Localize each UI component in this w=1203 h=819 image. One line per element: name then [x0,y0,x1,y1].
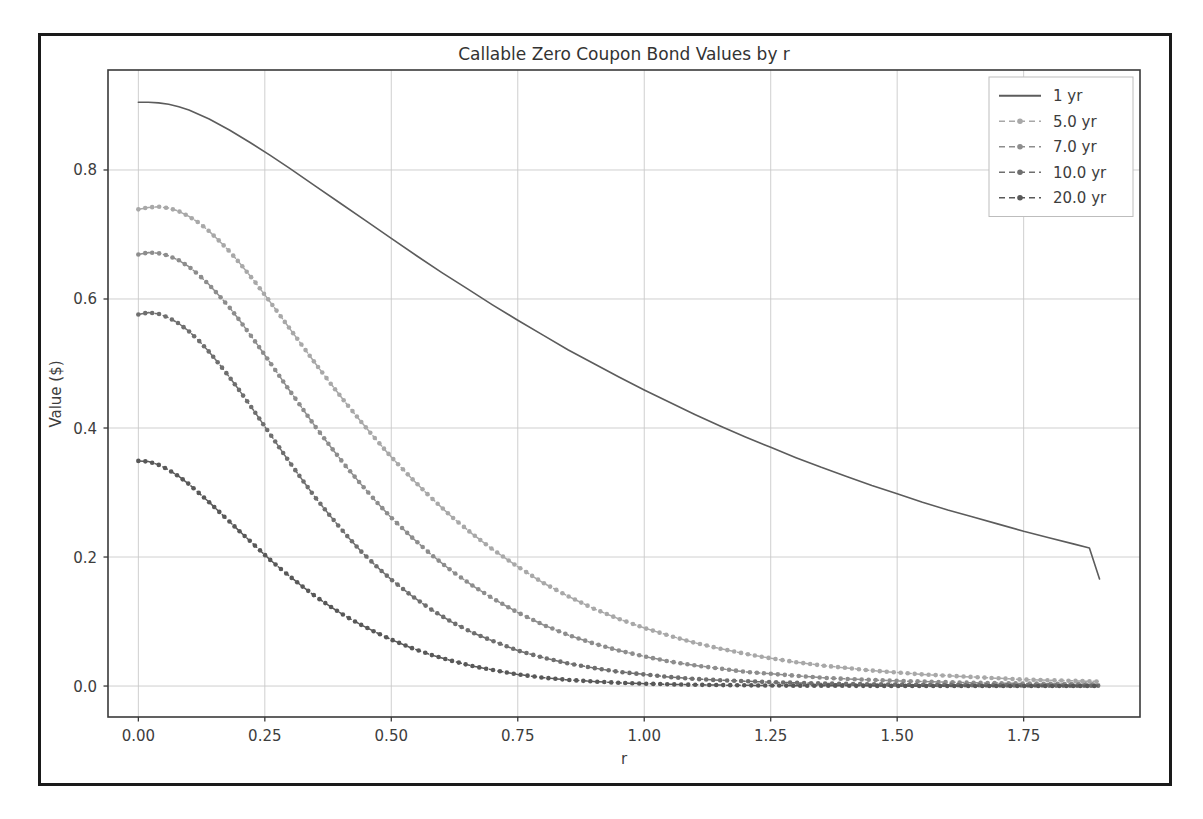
series-marker [318,502,323,507]
series-marker [671,634,676,639]
series-marker [470,664,475,669]
series-marker [263,553,268,558]
series-marker [143,459,148,464]
series-marker [237,529,242,534]
series-marker [216,238,221,243]
series-marker [273,562,278,567]
series-marker [572,662,577,667]
series-marker [218,295,223,300]
series-marker [852,677,857,682]
series-marker [833,683,838,688]
series-marker [335,608,340,613]
series-marker [212,505,217,510]
series-marker [436,558,441,563]
series-marker [517,649,522,654]
series-marker [641,672,646,677]
series-marker [677,636,682,641]
series-marker [565,661,570,666]
series-marker [345,534,350,539]
series-marker [265,356,270,361]
series-marker [588,679,593,684]
series-marker [186,481,191,486]
series-marker [269,362,274,367]
series-marker [453,571,458,576]
series-marker [466,628,471,633]
series-marker [270,303,275,308]
series-marker [323,601,328,606]
series-marker [808,662,813,667]
series-marker [309,419,314,424]
series-marker [390,638,395,643]
series-marker [226,248,231,253]
series-marker [891,670,896,675]
series-marker [237,388,242,393]
series-marker [341,398,346,403]
series-marker [236,317,241,322]
series-marker [776,672,781,677]
series-marker [361,485,366,490]
series-marker [244,328,249,333]
series-marker [209,285,214,290]
series-marker [396,462,401,467]
series-marker [1024,677,1029,682]
series-marker [896,684,901,689]
series-marker [845,677,850,682]
series-marker [739,679,744,684]
series-marker [548,584,553,589]
series-marker [606,668,611,673]
series-marker [245,399,250,404]
series-marker [560,591,565,596]
legend-label: 10.0 yr [1053,164,1107,182]
series-marker [401,467,406,472]
series-marker [783,673,788,678]
series-marker [150,460,155,465]
series-marker [189,216,194,221]
series-marker [676,675,681,680]
series-marker [415,482,420,487]
series-marker [297,402,302,407]
series-marker [542,581,547,586]
series-marker [204,280,209,285]
series-marker [484,666,489,671]
series-marker [617,617,622,622]
series-marker [524,651,529,656]
series-marker [586,665,591,670]
series-marker [222,514,227,519]
series-marker [861,684,866,689]
series-marker [611,614,616,619]
series-marker [718,646,723,651]
series-marker [699,664,704,669]
series-marker [940,673,945,678]
series-marker [405,472,410,477]
series-marker [136,459,141,464]
series-marker [711,678,716,683]
series-marker [249,333,254,338]
chart-legend[interactable]: 1 yr5.0 yr7.0 yr10.0 yr20.0 yr [989,77,1133,217]
series-marker [732,678,737,683]
series-marker [157,312,162,317]
series-marker [684,638,689,643]
series-marker [581,679,586,684]
chart-canvas: 0.000.250.500.751.001.251.501.75 0.00.20… [41,36,1169,783]
series-marker [177,209,182,214]
series-marker [987,684,992,689]
series-marker [301,479,306,484]
series-marker [181,325,186,330]
series-marker [506,558,511,563]
series-marker [1038,678,1043,683]
series-marker [624,619,629,624]
series-marker [211,354,216,359]
series-marker [919,672,924,677]
series-marker [347,616,352,621]
series-marker [655,673,660,678]
series-marker [281,451,286,456]
series-marker [489,546,494,551]
series-marker [966,684,971,689]
series-marker [836,665,841,670]
series-marker [945,684,950,689]
series-marker [253,543,258,548]
series-marker [278,314,283,319]
series-marker [912,672,917,677]
series-marker [777,683,782,688]
series-marker [573,597,578,602]
